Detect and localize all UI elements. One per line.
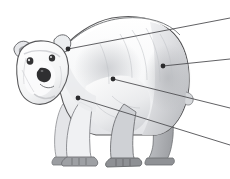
hind-paw-near [106,158,142,167]
front-paw-near [62,157,98,166]
head-marker-dot[interactable] [66,47,71,52]
eye-left-glint [28,59,30,61]
foreleg-marker-dot[interactable] [76,96,81,101]
torso-marker-dot[interactable] [111,77,116,82]
hindquarter-marker-dot[interactable] [161,64,166,69]
eye-right-glint [50,56,52,58]
flank-shade [144,44,192,112]
polar-bear-figure: Polar bear shown in side profile with fo… [0,0,230,179]
eye-right [49,54,55,61]
hind-paw-far [145,158,174,165]
eye-left [27,57,34,65]
polar-bear-illustration [0,0,230,179]
nose-glint [41,70,44,72]
